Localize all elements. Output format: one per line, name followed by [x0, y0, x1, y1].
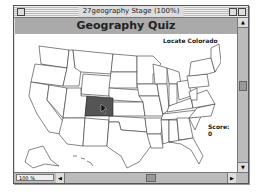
- state-wisconsin: [153, 64, 167, 84]
- state-new-mexico: [83, 118, 109, 146]
- us-map[interactable]: [21, 38, 221, 170]
- zoom-level-select[interactable]: 100 %: [16, 174, 54, 181]
- state-montana: [73, 50, 113, 74]
- window-title: 27geography Stage (100%): [79, 6, 184, 17]
- state-indiana: [169, 84, 177, 106]
- scroll-left-icon[interactable]: ◀: [56, 173, 65, 183]
- state-hawaii: [73, 156, 93, 166]
- state-kansas: [109, 102, 145, 116]
- stage: Geography Quiz: [15, 18, 237, 172]
- zoom-box-icon[interactable]: [229, 8, 237, 16]
- state-arizona: [59, 118, 85, 146]
- scroll-up-icon[interactable]: ▲: [238, 18, 248, 28]
- state-washington: [39, 46, 69, 68]
- state-south-dakota: [109, 72, 137, 88]
- close-box-icon[interactable]: [17, 8, 25, 16]
- state-new-york: [189, 58, 215, 76]
- state-north-dakota: [111, 54, 137, 72]
- vertical-scrollbar[interactable]: ▲ ▼: [237, 18, 248, 172]
- collapse-box-icon[interactable]: [238, 8, 246, 16]
- score-value: 0: [208, 130, 212, 137]
- quiz-prompt: Locate Colorado: [163, 37, 218, 44]
- bottom-bar: 100 % ◀ ▶: [14, 172, 248, 183]
- title-bar[interactable]: 27geography Stage (100%): [14, 6, 248, 18]
- state-arkansas: [145, 118, 163, 134]
- state-wyoming: [81, 74, 111, 96]
- quiz-title: Geography Quiz: [15, 18, 237, 34]
- state-alaska: [25, 146, 59, 168]
- scroll-down-icon[interactable]: ▼: [238, 162, 248, 172]
- state-iowa: [137, 84, 159, 96]
- vertical-scroll-thumb[interactable]: [239, 81, 247, 91]
- score-label: Score:: [208, 123, 229, 130]
- state-colorado: [85, 96, 113, 116]
- state-florida: [169, 138, 203, 164]
- horizontal-scroll-thumb[interactable]: [146, 174, 156, 182]
- scroll-right-icon[interactable]: ▶: [227, 173, 236, 183]
- stage-window: 27geography Stage (100%) Geography Quiz: [13, 5, 249, 184]
